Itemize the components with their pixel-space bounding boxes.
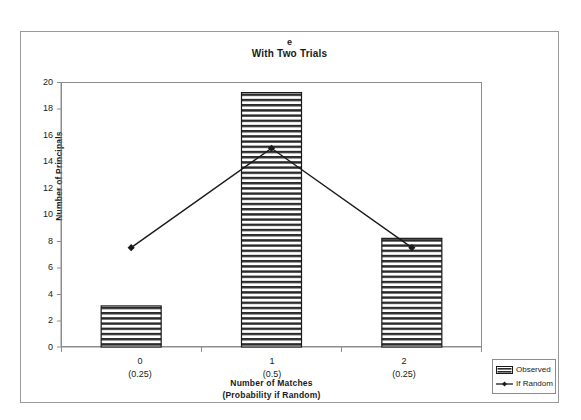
x-axis-title: Number of Matches (Probability if Random… (61, 377, 482, 401)
chart-title: e With Two Trials (20, 36, 559, 60)
chart-title-text: With Two Trials (20, 48, 559, 60)
y-tick-label-4: 4 (31, 290, 53, 299)
legend-item-observed: Observed (496, 363, 552, 377)
legend-label-observed: Observed (516, 366, 551, 374)
plot-area (61, 82, 482, 347)
x-tick-label-0: 0 (80, 355, 200, 368)
y-tick-label-8: 8 (31, 237, 53, 246)
y-tick-label-20: 20 (31, 78, 53, 87)
x-axis-title-main: Number of Matches (61, 377, 482, 389)
y-tick-label-6: 6 (31, 263, 53, 272)
y-tick-label-10: 10 (31, 210, 53, 219)
chart-panel-label: e (20, 36, 559, 48)
y-tick-label-18: 18 (31, 104, 53, 113)
hatched-bar-swatch-icon (496, 366, 513, 374)
x-tick-label-2: 2 (344, 355, 464, 368)
x-tick-label-1: 1 (212, 355, 332, 368)
x-axis-title-sub: (Probability if Random) (61, 389, 482, 401)
y-axis-title: Number of Principals (54, 96, 64, 256)
y-tick-label-2: 2 (31, 316, 53, 325)
chart-legend: Observed If Random (492, 359, 556, 394)
line-marker-swatch-icon (496, 380, 513, 388)
y-tick-label-16: 16 (31, 131, 53, 140)
legend-item-if-random: If Random (496, 377, 552, 391)
y-tick-label-12: 12 (31, 184, 53, 193)
legend-label-if-random: If Random (516, 380, 553, 388)
y-tick-label-0: 0 (31, 343, 53, 352)
chart-container: e With Two Trials Number of Principals 2… (0, 0, 581, 420)
y-tick-label-14: 14 (31, 157, 53, 166)
